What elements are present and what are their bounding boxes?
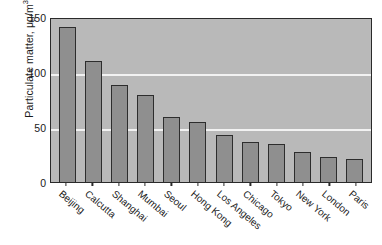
x-axis-tick-labels: BeijingCalcuttaShanghaiMumbaiSeoulHong K… [50, 183, 372, 245]
bar[interactable] [85, 61, 102, 182]
x-tick-slot: Beijing [53, 183, 79, 245]
bar[interactable] [111, 85, 128, 182]
bar[interactable] [346, 159, 363, 182]
x-axis-tick-mark [355, 183, 356, 186]
x-tick-slot: London [316, 183, 342, 245]
bar-series [51, 19, 371, 182]
bar[interactable] [59, 27, 76, 182]
x-axis-tick-mark [66, 183, 67, 186]
x-tick-slot: Shanghai [106, 183, 132, 245]
bar[interactable] [320, 157, 337, 182]
x-axis-tick-mark [250, 183, 251, 186]
bar-slot [106, 19, 132, 182]
x-axis-tick-mark [197, 183, 198, 186]
bar-slot [263, 19, 289, 182]
bar-slot [290, 19, 316, 182]
bar-slot [133, 19, 159, 182]
x-axis-tick-mark [145, 183, 146, 186]
x-axis-tick-mark [171, 183, 172, 186]
bar[interactable] [189, 122, 206, 183]
bar[interactable] [163, 117, 180, 182]
x-tick-slot: Hong Kong [185, 183, 211, 245]
bar[interactable] [268, 144, 285, 183]
x-axis-tick-mark [303, 183, 304, 186]
x-axis-tick-mark [329, 183, 330, 186]
y-axis-tick-label: 100 [20, 68, 46, 79]
bar[interactable] [294, 152, 311, 182]
x-tick-slot: Chicago [237, 183, 263, 245]
x-tick-slot: Calcutta [79, 183, 105, 245]
x-tick-slot: New York [290, 183, 316, 245]
bar[interactable] [216, 135, 233, 182]
bar-slot [211, 19, 237, 182]
x-tick-slot: Paris [343, 183, 369, 245]
bar[interactable] [242, 142, 259, 182]
plot-area [50, 18, 372, 183]
y-axis-tick-labels: 050100150 [16, 0, 46, 245]
bar-slot [54, 19, 80, 182]
x-axis-tick-label: Paris [347, 188, 372, 211]
x-axis-tick-mark [276, 183, 277, 186]
x-tick-slot: Los Angeles [211, 183, 237, 245]
bar-slot [80, 19, 106, 182]
x-axis-tick-mark [118, 183, 119, 186]
bar-slot [159, 19, 185, 182]
x-tick-slot: Tokyo [264, 183, 290, 245]
bar-slot [342, 19, 368, 182]
y-axis-tick-label: 0 [20, 178, 46, 189]
bar-slot [237, 19, 263, 182]
y-axis-tick-label: 150 [20, 13, 46, 24]
bar-slot [185, 19, 211, 182]
y-axis-tick-label: 50 [20, 123, 46, 134]
bar-chart-figure: Particulate matter, μg/m3 050100150 Beij… [0, 0, 382, 245]
bar[interactable] [137, 95, 154, 182]
x-tick-slot: Mumbai [132, 183, 158, 245]
x-axis-tick-mark [224, 183, 225, 186]
x-axis-tick-mark [92, 183, 93, 186]
x-tick-slot: Seoul [158, 183, 184, 245]
bar-slot [316, 19, 342, 182]
